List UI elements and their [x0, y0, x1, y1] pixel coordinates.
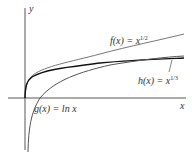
y-axis-label: y: [29, 4, 33, 14]
function-graph: y x f(x) = x1/2 h(x) = x1/3 g(x) = ln x: [0, 0, 192, 156]
x-axis-label: x: [180, 101, 184, 111]
h-label: h(x) = x1/3: [138, 75, 178, 86]
g-label: g(x) = ln x: [34, 104, 77, 114]
f-label: f(x) = x1/2: [110, 35, 148, 46]
h-label-leader: [169, 60, 172, 72]
